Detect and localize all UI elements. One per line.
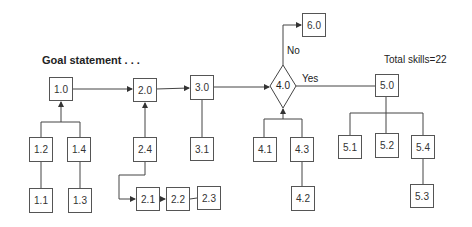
node-3-0: 3.0: [190, 75, 214, 100]
node-5-4: 5.4: [411, 135, 435, 159]
node-4-1: 4.1: [253, 137, 277, 162]
goal-statement-label: Goal statement . . .: [42, 54, 140, 66]
node-2-1: 2.1: [136, 187, 160, 211]
node-4-3: 4.3: [290, 137, 314, 162]
node-5-1: 5.1: [338, 135, 362, 159]
node-2-0: 2.0: [133, 78, 157, 102]
yes-label: Yes: [302, 73, 318, 84]
node-5-3: 5.3: [410, 184, 434, 208]
no-label: No: [287, 45, 300, 56]
node-5-2: 5.2: [375, 133, 399, 158]
node-6-0: 6.0: [302, 13, 326, 37]
node-4-2: 4.2: [291, 186, 315, 211]
node-5-0: 5.0: [375, 74, 399, 97]
node-1-4: 1.4: [67, 137, 91, 162]
decision-node-4-0: 4.0: [274, 80, 292, 91]
node-2-2: 2.2: [166, 187, 190, 211]
node-1-2: 1.2: [29, 137, 53, 162]
node-2-4: 2.4: [133, 137, 157, 162]
node-2-3: 2.3: [197, 186, 221, 210]
node-1-0: 1.0: [49, 77, 73, 101]
node-1-1: 1.1: [29, 188, 53, 213]
total-skills-label: Total skills=22: [384, 54, 447, 65]
node-1-3: 1.3: [68, 188, 92, 213]
node-3-1: 3.1: [190, 137, 214, 161]
